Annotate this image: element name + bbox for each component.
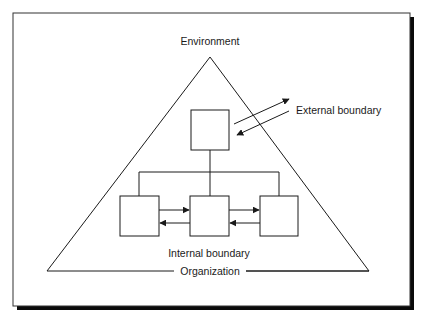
internal-boundary-label: Internal boundary — [168, 247, 250, 259]
diagram-frame — [13, 13, 410, 306]
node-left — [120, 196, 159, 236]
external-boundary-label: External boundary — [296, 104, 382, 116]
organization-diagram: Environment Organization External bounda… — [0, 0, 424, 324]
organization-label: Organization — [180, 265, 240, 277]
node-middle — [190, 196, 229, 236]
environment-label: Environment — [181, 35, 240, 47]
node-top — [191, 110, 229, 150]
node-right — [260, 196, 298, 236]
